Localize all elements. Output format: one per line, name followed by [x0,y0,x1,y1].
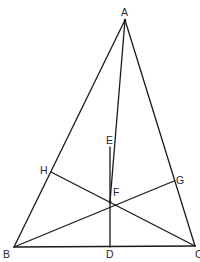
label-f: F [113,186,119,198]
label-d: D [106,248,114,260]
label-h: H [40,164,48,176]
segment-bg [14,181,174,247]
point-a-dot [124,19,126,21]
segment-ch [51,172,195,246]
segment-ac [125,20,195,246]
segments [14,20,195,247]
label-c: C [195,248,200,260]
label-e: E [106,134,113,146]
labels: A B C D E F G H [3,6,200,260]
point-f-dot [109,201,112,204]
label-a: A [121,6,128,18]
label-g: G [176,174,184,186]
label-b: B [3,248,10,260]
segment-bc [14,246,195,247]
triangle-diagram: A B C D E F G H [0,0,200,262]
